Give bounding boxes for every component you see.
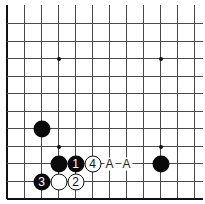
star-point bbox=[159, 145, 163, 149]
grid-vertical-line bbox=[177, 5, 178, 199]
grid-horizontal-line bbox=[7, 146, 203, 147]
move-number: 1 bbox=[72, 158, 79, 170]
black-stone bbox=[152, 155, 169, 172]
board-left-edge bbox=[6, 5, 8, 199]
black-stone: 1 bbox=[67, 155, 84, 172]
grid-horizontal-line bbox=[7, 111, 203, 112]
black-stone bbox=[50, 155, 67, 172]
point-marker-label: A bbox=[121, 157, 132, 170]
grid-horizontal-line bbox=[7, 41, 203, 42]
move-number: 3 bbox=[38, 176, 45, 188]
white-stone: 2 bbox=[67, 173, 84, 190]
grid-vertical-line bbox=[41, 5, 42, 199]
white-stone: 4 bbox=[84, 155, 101, 172]
move-number: 2 bbox=[72, 176, 79, 188]
grid-vertical-line bbox=[24, 5, 25, 199]
grid-vertical-line bbox=[194, 5, 195, 199]
grid-horizontal-line bbox=[7, 23, 203, 24]
grid-vertical-line bbox=[143, 5, 144, 199]
black-stone bbox=[33, 120, 50, 137]
board-bottom-edge bbox=[7, 198, 203, 200]
point-marker-label: A bbox=[104, 157, 115, 170]
star-point bbox=[57, 145, 61, 149]
white-stone bbox=[50, 173, 67, 190]
black-stone: 3 bbox=[33, 173, 50, 190]
grid-horizontal-line bbox=[7, 93, 203, 94]
star-point bbox=[57, 57, 61, 61]
move-number: 4 bbox=[89, 158, 96, 170]
go-board: AA1432 bbox=[0, 0, 205, 204]
grid-horizontal-line bbox=[7, 76, 203, 77]
grid-horizontal-line bbox=[7, 58, 203, 59]
star-point bbox=[159, 57, 163, 61]
